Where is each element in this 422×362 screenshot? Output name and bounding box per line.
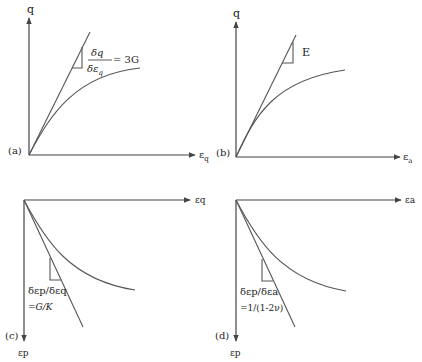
slope-equation: = 3G	[113, 54, 139, 65]
panel-c: εq εp (c) δεp/δεq =G/K	[5, 195, 206, 358]
x-axis-label: εq	[195, 195, 206, 205]
y-axis-label: q	[233, 7, 240, 20]
y-axis-label: εp	[18, 348, 29, 358]
x-axis-label: εa	[405, 195, 416, 205]
tangent-line	[29, 32, 90, 155]
figure-canvas: q εq (a) δq δεq = 3G q εa (b) E εq εp (c…	[0, 0, 422, 362]
y-axis-label: q	[27, 3, 34, 16]
panel-tag: (b)	[216, 147, 230, 158]
panel-tag: (a)	[8, 145, 22, 156]
x-axis-label: εq	[199, 149, 209, 163]
slope-label: δεp/δεa	[240, 286, 278, 297]
x-axis-label: εa	[403, 151, 412, 165]
panel-tag: (c)	[5, 330, 19, 341]
slope-label: δεp/δεq	[28, 285, 67, 296]
slope-label: E	[302, 46, 310, 59]
slope-denominator: δεq	[87, 63, 103, 77]
stress-strain-curve	[236, 70, 345, 157]
stress-strain-curve	[29, 68, 140, 155]
volumetric-curve	[24, 200, 135, 290]
slope-triangle	[262, 259, 273, 281]
slope-equation: =1/(1-2ν)	[240, 303, 283, 313]
volumetric-curve	[236, 200, 346, 291]
panel-d: εa εp (d) δεp/δεa =1/(1-2ν)	[215, 195, 416, 358]
slope-equation: =G/K	[28, 302, 54, 312]
slope-numerator: δq	[91, 47, 103, 58]
y-axis-label: εp	[230, 348, 241, 358]
panel-tag: (d)	[215, 330, 229, 341]
panel-a: q εq (a) δq δεq = 3G	[8, 3, 209, 163]
panel-b: q εa (b) E	[216, 7, 412, 165]
